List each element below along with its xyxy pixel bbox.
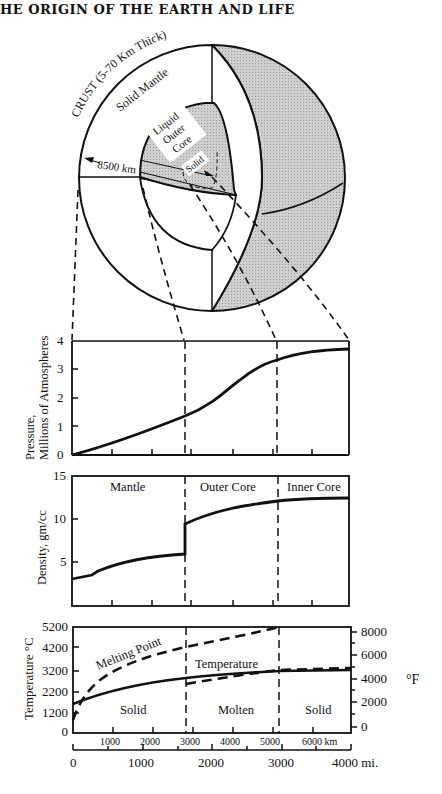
svg-text:Solid: Solid <box>305 703 332 717</box>
svg-text:8000: 8000 <box>361 624 387 639</box>
svg-text:Molten: Molten <box>218 703 255 717</box>
svg-text:5000: 5000 <box>260 736 280 747</box>
svg-text:2: 2 <box>57 390 64 405</box>
svg-text:3000: 3000 <box>268 755 294 770</box>
svg-text:Millions of Atmospheres: Millions of Atmospheres <box>37 336 51 460</box>
pressure-curve <box>72 349 349 455</box>
svg-text:Pressure,: Pressure, <box>23 415 37 460</box>
svg-text:3: 3 <box>57 361 64 376</box>
svg-text:1000: 1000 <box>100 736 120 747</box>
svg-text:1200: 1200 <box>42 705 68 720</box>
svg-text:0: 0 <box>70 755 77 770</box>
svg-text:Solid: Solid <box>120 703 147 717</box>
svg-text:Inner Core: Inner Core <box>287 480 341 494</box>
svg-text:2200: 2200 <box>42 684 68 699</box>
svg-text:Density, gm/cc: Density, gm/cc <box>35 510 49 585</box>
density-chart: 15 10 5 Mantle Outer Core Inner Core Den… <box>35 468 349 606</box>
svg-text:5: 5 <box>60 554 67 569</box>
svg-text:0: 0 <box>62 724 69 739</box>
svg-text:4000 mi.: 4000 mi. <box>332 755 378 770</box>
svg-text:Temperature °C: Temperature °C <box>21 637 36 720</box>
density-curve <box>72 498 349 579</box>
svg-text:15: 15 <box>53 468 66 483</box>
svg-text:Temperature: Temperature <box>195 657 258 671</box>
svg-text:4: 4 <box>57 333 64 348</box>
svg-text:°F: °F <box>406 672 420 687</box>
svg-text:10: 10 <box>53 511 66 526</box>
svg-text:6000: 6000 <box>361 647 387 662</box>
svg-text:0: 0 <box>361 719 368 734</box>
svg-text:5200: 5200 <box>42 619 68 634</box>
svg-text:2000: 2000 <box>361 694 387 709</box>
svg-text:Melting Point: Melting Point <box>94 634 164 673</box>
svg-text:1000: 1000 <box>128 755 154 770</box>
temperature-chart: 5200 4200 3200 2200 1200 0 8000 6000 400… <box>21 619 420 770</box>
svg-text:Outer Core: Outer Core <box>200 480 256 494</box>
earth-diagram: 8500 km CRUST (5-70 Km Thick) Solid Mant… <box>0 0 442 794</box>
svg-text:0: 0 <box>57 447 64 462</box>
svg-text:6000 km: 6000 km <box>302 736 338 747</box>
svg-text:4000: 4000 <box>361 671 387 686</box>
pressure-chart: 0 1 2 3 4 Pressure, Millions of Atmosphe… <box>23 333 349 462</box>
svg-text:Mantle: Mantle <box>110 480 146 494</box>
svg-text:1: 1 <box>57 419 64 434</box>
svg-text:4000: 4000 <box>220 736 240 747</box>
svg-text:2000: 2000 <box>198 755 224 770</box>
svg-text:3200: 3200 <box>42 663 68 678</box>
globe-cutaway: 8500 km CRUST (5-70 Km Thick) Solid Mant… <box>68 27 345 311</box>
svg-text:3000: 3000 <box>180 736 200 747</box>
temperature-curve <box>73 670 351 704</box>
svg-text:4200: 4200 <box>42 640 68 655</box>
